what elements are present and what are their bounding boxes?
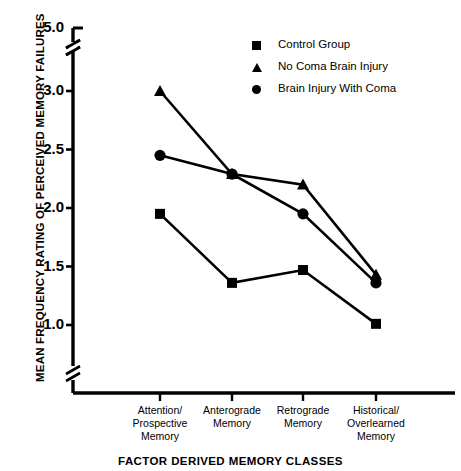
x-axis-title: FACTOR DERIVED MEMORY CLASSES — [0, 455, 461, 467]
triangle-data-marker — [154, 85, 166, 96]
series-circle — [154, 150, 381, 289]
square-icon — [251, 40, 263, 52]
circle-data-marker — [297, 208, 308, 219]
series-line — [160, 91, 376, 275]
chart-legend: Control GroupNo Coma Brain InjuryBrain I… — [251, 36, 456, 102]
x-axis-tick-labels: Attention/ProspectiveMemoryAnterogradeMe… — [0, 398, 461, 460]
circle-data-marker — [370, 277, 381, 288]
triangle-icon — [251, 62, 263, 74]
y-axis-break-lower — [66, 366, 80, 381]
legend-item-label: Brain Injury With Coma — [278, 82, 396, 94]
legend-item: No Coma Brain Injury — [251, 58, 456, 78]
square-data-marker — [371, 319, 381, 329]
legend-item: Control Group — [251, 36, 456, 56]
series-triangle — [154, 85, 382, 280]
square-data-marker — [298, 265, 308, 275]
x-tick-label-line: Historical/ — [328, 404, 424, 417]
series-line — [160, 155, 376, 283]
series-square — [155, 209, 381, 329]
memory-failures-line-chart: MEAN FREQUENCY RATING OF PERCEIVED MEMOR… — [0, 0, 461, 471]
legend-item-label: No Coma Brain Injury — [278, 60, 388, 72]
x-tick-label-line: Memory — [328, 430, 424, 443]
square-data-marker — [155, 209, 165, 219]
square-data-marker — [227, 278, 237, 288]
circle-data-marker — [154, 150, 165, 161]
circle-data-marker — [226, 168, 237, 179]
legend-item-label: Control Group — [278, 38, 350, 50]
series-line — [160, 214, 376, 324]
circle-icon — [251, 84, 263, 96]
x-tick-label-line: Memory — [112, 430, 208, 443]
legend-item: Brain Injury With Coma — [251, 80, 456, 100]
data-series-layer — [154, 85, 382, 329]
x-tick-label-line: Overlearned — [328, 417, 424, 430]
x-tick-label: Historical/OverlearnedMemory — [328, 404, 424, 443]
